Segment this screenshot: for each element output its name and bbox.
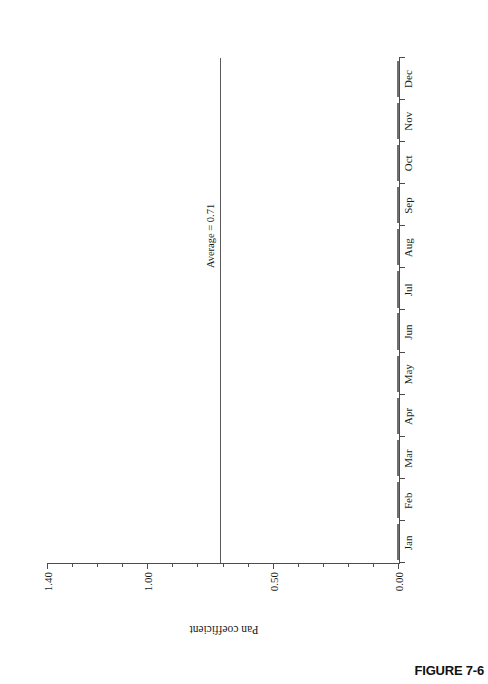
bar-slot — [397, 479, 399, 521]
x-axis-label-jul: Jul — [402, 269, 432, 311]
bar-slot — [397, 142, 399, 184]
bar-slot — [397, 184, 399, 226]
bar-oct — [397, 145, 399, 181]
y-tick-minor — [122, 563, 123, 567]
bar-dec — [397, 61, 399, 97]
bar-jun — [397, 313, 399, 349]
bar-nov — [397, 103, 399, 139]
y-tick-minor — [373, 563, 374, 567]
y-tick-label: 0.50 — [268, 572, 280, 591]
y-tick-minor — [323, 563, 324, 567]
bar-slot — [397, 353, 399, 395]
y-tick-minor — [72, 563, 73, 567]
bar-feb — [397, 482, 399, 518]
y-tick-label: 0.00 — [393, 572, 405, 591]
y-tick-minor — [172, 563, 173, 567]
bar-jan — [397, 524, 399, 560]
x-axis-label-apr: Apr — [402, 395, 432, 437]
y-tick-label: 1.00 — [142, 572, 154, 591]
y-tick-major — [273, 563, 274, 569]
bar-series — [48, 58, 399, 563]
bar-jul — [397, 271, 399, 307]
bar-apr — [397, 398, 399, 434]
bar-slot — [397, 395, 399, 437]
bar-slot — [397, 58, 399, 100]
y-tick-minor — [348, 563, 349, 567]
y-tick-minor — [248, 563, 249, 567]
bar-slot — [397, 437, 399, 479]
y-tick-label: 1.40 — [42, 572, 54, 591]
y-tick-minor — [223, 563, 224, 567]
y-tick-minor — [298, 563, 299, 567]
bar-mar — [397, 440, 399, 476]
figure-page: 0.000.501.001.40 Average = 0.71 Pan coef… — [0, 0, 488, 684]
x-axis-label-may: May — [402, 353, 432, 395]
y-tick-major — [398, 563, 399, 569]
x-axis-label-feb: Feb — [402, 480, 432, 522]
bar-aug — [397, 229, 399, 265]
chart-stage: 0.000.501.001.40 Average = 0.71 Pan coef… — [34, 42, 454, 642]
bar-slot — [397, 100, 399, 142]
bar-may — [397, 356, 399, 392]
x-axis-label-sep: Sep — [402, 184, 432, 226]
average-line-label: Average = 0.71 — [205, 202, 216, 270]
x-axis-label-aug: Aug — [402, 227, 432, 269]
y-axis-title: Pan coefficient — [189, 624, 258, 636]
bar-sep — [397, 187, 399, 223]
bar-slot — [397, 311, 399, 353]
x-axis-label-dec: Dec — [402, 58, 432, 100]
x-axis-label-mar: Mar — [402, 437, 432, 479]
plot-area: 0.000.501.001.40 Average = 0.71 — [48, 58, 400, 564]
x-axis-labels: JanFebMarAprMayJunJulAugSepOctNovDec — [402, 58, 432, 564]
y-tick-major — [47, 563, 48, 569]
bar-slot — [397, 268, 399, 310]
x-axis-label-jun: Jun — [402, 311, 432, 353]
x-axis-label-oct: Oct — [402, 142, 432, 184]
x-axis-label-nov: Nov — [402, 100, 432, 142]
plot-area-wrapper: 0.000.501.001.40 Average = 0.71 Pan coef… — [48, 58, 400, 564]
figure-caption: FIGURE 7-6 — [414, 663, 484, 678]
bar-slot — [397, 226, 399, 268]
y-tick-minor — [197, 563, 198, 567]
y-tick-minor — [97, 563, 98, 567]
y-tick-major — [147, 563, 148, 569]
x-axis-label-jan: Jan — [402, 522, 432, 564]
bar-slot — [397, 521, 399, 563]
